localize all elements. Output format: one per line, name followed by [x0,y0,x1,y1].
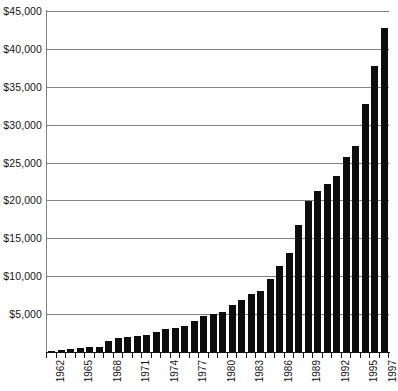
bar [257,291,264,352]
bar [286,253,293,352]
bar [181,326,188,352]
y-axis-tick-label: $20,000 [3,195,42,206]
x-axis-tick-label: 1968 [113,360,123,382]
bar [162,329,169,352]
x-axis-labels: 1962196519681971197419771980198319861989… [0,356,392,391]
x-axis-tick-label: 1989 [312,360,322,382]
bar [200,316,207,352]
bar [153,332,160,352]
x-axis-tick-label: 1971 [141,360,151,382]
x-axis-tick-label: 1997 [388,360,398,382]
bar [229,305,236,352]
y-axis-tick-label: $10,000 [3,271,42,282]
x-axis-tick-label: 1965 [84,360,94,382]
y-axis-tick-label: $45,000 [3,6,42,17]
x-axis-tick-label: 1962 [56,360,66,382]
bar [267,279,274,353]
bar [324,184,331,352]
bar [352,146,359,352]
x-axis-tick-label: 1980 [227,360,237,382]
bar [362,104,369,352]
y-axis-tick-label: $15,000 [3,233,42,244]
y-axis-labels: $45,000$40,000$35,000$30,000$25,000$20,0… [0,0,42,391]
bar [143,335,150,352]
x-axis-tick-label: 1977 [198,360,208,382]
bar [191,321,198,352]
bar [238,300,245,352]
y-axis-tick-label: $5,000 [9,309,42,320]
y-axis-tick-label: $35,000 [3,81,42,92]
x-axis-tick-label: 1983 [255,360,265,382]
bar [105,341,112,352]
bar [305,201,312,352]
x-axis-tick-label: 1995 [369,360,379,382]
bar [381,28,388,352]
x-axis-tick-label: 1992 [341,360,351,382]
bar [172,328,179,352]
x-axis-tick-label: 1974 [170,360,180,382]
bar [371,66,378,352]
bar [134,336,141,352]
plot-area [47,11,389,352]
y-axis-tick-label: $40,000 [3,43,42,54]
bar [248,294,255,352]
x-axis-tick-label: 1986 [284,360,294,382]
bar [276,266,283,352]
bar [333,176,340,352]
y-axis-tick-label: $30,000 [3,119,42,130]
bar [210,314,217,352]
bar [124,337,131,352]
bars [47,11,389,352]
bar [219,312,226,352]
bar [314,191,321,352]
y-axis-tick-label: $25,000 [3,157,42,168]
bar [115,338,122,352]
bar [343,157,350,353]
bar [295,225,302,352]
